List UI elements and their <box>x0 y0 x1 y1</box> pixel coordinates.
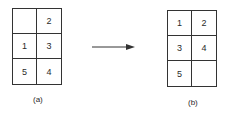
grid-b-cell: 5 <box>168 61 192 86</box>
grid-b-cell: 4 <box>192 36 216 61</box>
grid-a-cell: 1 <box>13 34 37 59</box>
grid-b-cell: 2 <box>192 11 216 36</box>
grid-a-label: (a) <box>33 95 43 104</box>
grid-b-label: (b) <box>188 98 198 107</box>
grid-a-cell: 3 <box>37 34 61 59</box>
grid-b: 1 2 3 4 5 <box>167 10 217 87</box>
grid-a: 2 1 3 5 4 <box>12 8 62 85</box>
grid-a-cell: 4 <box>37 59 61 84</box>
grid-b-cell: 3 <box>168 36 192 61</box>
right-arrow-icon <box>92 42 136 52</box>
grid-a-cell: 2 <box>37 9 61 34</box>
grid-b-cell: 1 <box>168 11 192 36</box>
grid-a-cell <box>13 9 37 34</box>
grid-b-cell <box>192 61 216 86</box>
grid-a-cell: 5 <box>13 59 37 84</box>
